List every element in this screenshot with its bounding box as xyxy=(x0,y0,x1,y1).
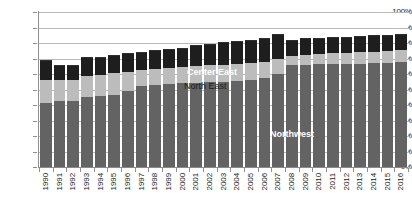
bar-segment-centereast-2003[interactable] xyxy=(218,42,229,64)
bar-segment-centereast-2014[interactable] xyxy=(368,35,379,51)
bar-2016[interactable] xyxy=(395,34,406,167)
bar-1990[interactable] xyxy=(40,60,51,167)
bar-segment-northeast-1993[interactable] xyxy=(81,76,92,98)
bar-segment-northwest-1993[interactable] xyxy=(81,97,92,167)
bar-segment-northeast-2014[interactable] xyxy=(368,52,379,64)
bar-segment-northwest-2014[interactable] xyxy=(368,63,379,167)
bar-2011[interactable] xyxy=(327,37,338,167)
bar-segment-northwest-2010[interactable] xyxy=(313,64,324,167)
bar-1998[interactable] xyxy=(149,50,160,167)
bar-segment-centereast-1995[interactable] xyxy=(108,55,119,73)
bar-segment-northwest-2008[interactable] xyxy=(286,65,297,167)
bar-segment-northwest-2001[interactable] xyxy=(190,83,201,167)
bar-segment-centereast-2009[interactable] xyxy=(300,38,311,54)
bar-segment-centereast-1996[interactable] xyxy=(122,53,133,72)
bar-segment-northwest-2013[interactable] xyxy=(354,64,365,167)
bar-segment-northwest-2004[interactable] xyxy=(231,81,242,167)
bar-segment-northeast-2005[interactable] xyxy=(245,63,256,80)
bar-1994[interactable] xyxy=(95,57,106,167)
bar-segment-centereast-1993[interactable] xyxy=(81,57,92,76)
bar-segment-centereast-2002[interactable] xyxy=(204,44,215,66)
bar-segment-northwest-2005[interactable] xyxy=(245,80,256,167)
bar-segment-northwest-1996[interactable] xyxy=(122,91,133,167)
bar-segment-northeast-1995[interactable] xyxy=(108,73,119,95)
bar-segment-centereast-2008[interactable] xyxy=(286,40,297,56)
bar-2002[interactable] xyxy=(204,44,215,167)
bar-segment-northwest-1994[interactable] xyxy=(95,96,106,167)
bar-segment-northwest-2015[interactable] xyxy=(382,63,393,167)
bar-1992[interactable] xyxy=(67,65,78,167)
bar-segment-centereast-2001[interactable] xyxy=(190,45,201,66)
bar-segment-northeast-2016[interactable] xyxy=(395,50,406,62)
bar-segment-northeast-2015[interactable] xyxy=(382,51,393,63)
bar-segment-northwest-1992[interactable] xyxy=(67,101,78,167)
bar-2003[interactable] xyxy=(218,42,229,167)
bar-segment-northwest-2006[interactable] xyxy=(259,78,270,167)
bar-2000[interactable] xyxy=(177,48,188,167)
bar-segment-northeast-2011[interactable] xyxy=(327,53,338,64)
bar-2007[interactable] xyxy=(272,34,283,167)
bar-segment-centereast-1991[interactable] xyxy=(54,65,65,80)
bar-segment-centereast-2006[interactable] xyxy=(259,38,270,62)
bar-1996[interactable] xyxy=(122,53,133,167)
bar-segment-northwest-2009[interactable] xyxy=(300,65,311,167)
bar-segment-northwest-2000[interactable] xyxy=(177,83,188,167)
bar-segment-centereast-2005[interactable] xyxy=(245,40,256,63)
bar-segment-northeast-1991[interactable] xyxy=(54,80,65,101)
bar-2006[interactable] xyxy=(259,38,270,167)
bar-segment-centereast-2004[interactable] xyxy=(231,41,242,63)
bar-2012[interactable] xyxy=(341,37,352,167)
bar-1999[interactable] xyxy=(163,49,174,167)
bar-segment-northeast-2012[interactable] xyxy=(341,53,352,64)
bar-segment-northeast-1992[interactable] xyxy=(67,80,78,101)
bar-segment-centereast-1990[interactable] xyxy=(40,60,51,80)
bar-segment-northeast-1994[interactable] xyxy=(95,75,106,97)
bar-segment-northeast-1990[interactable] xyxy=(40,80,51,102)
bar-1993[interactable] xyxy=(81,57,92,167)
bar-1997[interactable] xyxy=(136,52,147,167)
bar-segment-northwest-2016[interactable] xyxy=(395,62,406,167)
bar-segment-northeast-1996[interactable] xyxy=(122,72,133,91)
bar-2015[interactable] xyxy=(382,35,393,168)
bar-segment-northwest-1999[interactable] xyxy=(163,84,174,167)
bar-segment-northwest-2003[interactable] xyxy=(218,82,229,167)
bar-2004[interactable] xyxy=(231,41,242,167)
bar-segment-centereast-1994[interactable] xyxy=(95,57,106,75)
bar-2010[interactable] xyxy=(313,38,324,167)
bar-segment-northwest-2007[interactable] xyxy=(272,74,283,167)
bar-segment-northeast-2008[interactable] xyxy=(286,56,297,65)
bar-segment-northwest-1990[interactable] xyxy=(40,103,51,167)
bar-segment-northwest-2012[interactable] xyxy=(341,64,352,167)
bar-segment-northeast-2006[interactable] xyxy=(259,62,270,78)
bar-2005[interactable] xyxy=(245,40,256,167)
bar-segment-northwest-1998[interactable] xyxy=(149,85,160,167)
bar-segment-northeast-1999[interactable] xyxy=(163,68,174,84)
bar-segment-centereast-2013[interactable] xyxy=(354,36,365,52)
bar-segment-northwest-1991[interactable] xyxy=(54,101,65,167)
bar-segment-northeast-1997[interactable] xyxy=(136,70,147,86)
bar-segment-northeast-1998[interactable] xyxy=(149,69,160,85)
bar-2008[interactable] xyxy=(286,40,297,167)
bar-segment-northeast-2007[interactable] xyxy=(272,59,283,74)
bar-segment-centereast-2000[interactable] xyxy=(177,48,188,67)
bar-segment-centereast-1998[interactable] xyxy=(149,50,160,69)
bar-segment-centereast-2007[interactable] xyxy=(272,34,283,59)
bar-segment-northeast-2013[interactable] xyxy=(354,52,365,64)
bar-segment-centereast-2010[interactable] xyxy=(313,38,324,54)
bar-segment-centereast-2016[interactable] xyxy=(395,34,406,50)
bar-segment-centereast-1992[interactable] xyxy=(67,65,78,80)
bar-segment-centereast-2011[interactable] xyxy=(327,37,338,53)
bar-segment-northwest-1997[interactable] xyxy=(136,86,147,167)
bar-segment-centereast-2012[interactable] xyxy=(341,37,352,53)
bar-1995[interactable] xyxy=(108,55,119,167)
bar-segment-northwest-2011[interactable] xyxy=(327,64,338,167)
bar-segment-northeast-2009[interactable] xyxy=(300,55,311,65)
bar-2014[interactable] xyxy=(368,35,379,167)
bar-segment-northeast-2010[interactable] xyxy=(313,54,324,64)
bar-segment-centereast-1999[interactable] xyxy=(163,49,174,68)
bar-1991[interactable] xyxy=(54,65,65,167)
bar-segment-centereast-2015[interactable] xyxy=(382,35,393,51)
bar-segment-northwest-2002[interactable] xyxy=(204,82,215,167)
bar-2001[interactable] xyxy=(190,45,201,167)
bar-2013[interactable] xyxy=(354,36,365,167)
